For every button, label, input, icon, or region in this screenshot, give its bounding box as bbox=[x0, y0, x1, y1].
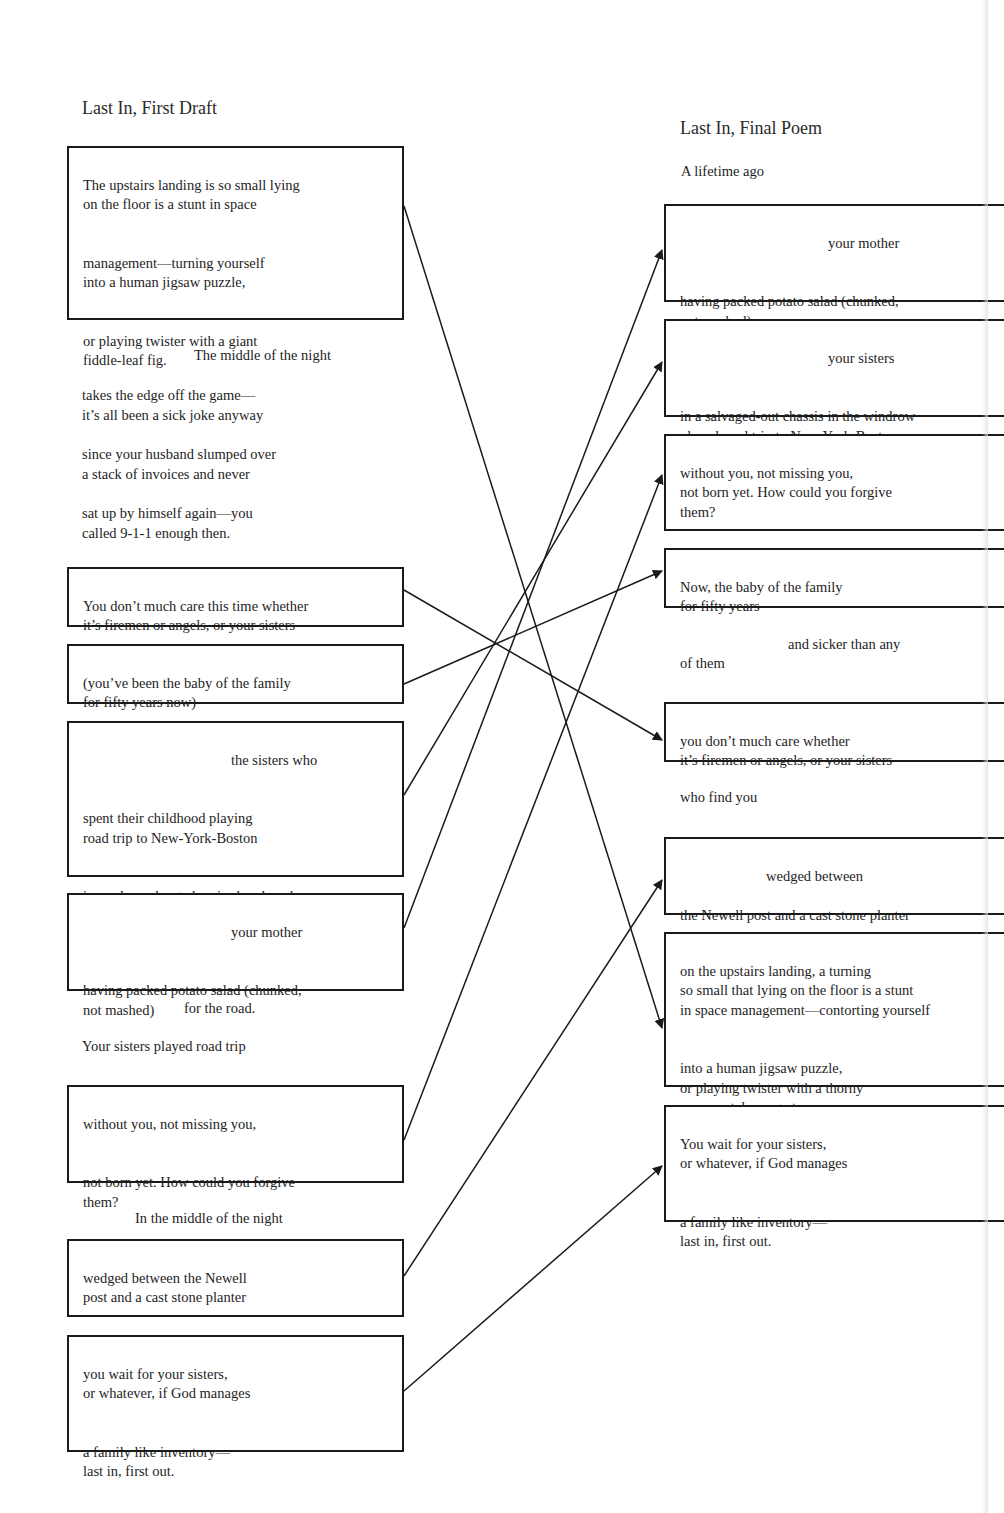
arrow-L1-to-R7 bbox=[404, 206, 662, 1028]
final-title: Last In, Final Poem bbox=[680, 118, 822, 139]
indented-line: your mother bbox=[83, 923, 388, 943]
arrow-L2-to-R5 bbox=[404, 590, 662, 740]
final-box-wedged-between: wedged between the Newell post and a cas… bbox=[664, 837, 1004, 915]
arrow-L8-to-R8 bbox=[404, 1166, 662, 1391]
page-edge-shadow bbox=[982, 0, 988, 1513]
draft-box-dont-much-care: You don’t much care this time whether it… bbox=[67, 567, 404, 627]
draft-box-wedged-between: wedged between the Newell post and a cas… bbox=[67, 1239, 404, 1317]
stanza: The upstairs landing is so small lying o… bbox=[83, 176, 388, 215]
draft-stanza-husband-slumped: since your husband slumped over a stack … bbox=[82, 445, 276, 484]
draft-line-in-the-middle: In the middle of the night bbox=[135, 1209, 283, 1229]
final-box-your-mother: your mother having packed potato salad (… bbox=[664, 204, 1004, 302]
stanza: without you, not missing you, not born y… bbox=[680, 464, 990, 523]
draft-box-upstairs-landing: The upstairs landing is so small lying o… bbox=[67, 146, 404, 320]
draft-title: Last In, First Draft bbox=[82, 98, 217, 119]
final-box-you-wait: You wait for your sisters, or whatever, … bbox=[664, 1105, 1004, 1222]
stanza: Now, the baby of the family for fifty ye… bbox=[680, 578, 990, 617]
final-line-lifetime-ago: A lifetime ago bbox=[681, 162, 764, 182]
stanza: not born yet. How could you forgive them… bbox=[83, 1173, 388, 1212]
stanza: a family like inventory— last in, first … bbox=[680, 1213, 990, 1252]
final-box-upstairs-landing: on the upstairs landing, a turning so sm… bbox=[664, 932, 1004, 1087]
arrow-L5-to-R1 bbox=[404, 250, 662, 928]
draft-line-for-the-road: for the road. bbox=[184, 999, 255, 1019]
stanza: on the upstairs landing, a turning so sm… bbox=[680, 962, 990, 1021]
indented-line: wedged between bbox=[680, 867, 990, 887]
arrow-L6-to-R3 bbox=[404, 475, 662, 1140]
final-line-sicker-than-any: and sicker than any bbox=[788, 635, 900, 655]
final-box-your-sisters: your sisters in a salvaged-out chassis i… bbox=[664, 319, 1004, 417]
final-box-without-you: without you, not missing you, not born y… bbox=[664, 434, 1004, 531]
arrow-L7-to-R6 bbox=[404, 880, 662, 1276]
stanza: you don’t much care whether it’s firemen… bbox=[680, 732, 990, 771]
stanza: management—turning yourself into a human… bbox=[83, 254, 388, 293]
stanza: You don’t much care this time whether it… bbox=[83, 597, 388, 636]
stanza: without you, not missing you, bbox=[83, 1115, 388, 1135]
draft-line-sisters-played: Your sisters played road trip bbox=[82, 1037, 246, 1057]
draft-box-sisters-who: the sisters who spent their childhood pl… bbox=[67, 721, 404, 877]
stanza: wedged between the Newell post and a cas… bbox=[83, 1269, 388, 1308]
draft-box-you-wait: you wait for your sisters, or whatever, … bbox=[67, 1335, 404, 1452]
indented-line: the sisters who bbox=[83, 751, 388, 771]
stanza: the Newell post and a cast stone planter bbox=[680, 906, 990, 926]
stanza: a family like inventory— last in, first … bbox=[83, 1443, 388, 1482]
draft-box-without-you: without you, not missing you, not born y… bbox=[67, 1085, 404, 1183]
final-box-baby-of-family: Now, the baby of the family for fifty ye… bbox=[664, 548, 1004, 608]
arrow-L3-to-R4 bbox=[404, 571, 662, 684]
final-line-who-find-you: who find you bbox=[680, 788, 757, 808]
stanza: You wait for your sisters, or whatever, … bbox=[680, 1135, 990, 1174]
final-box-dont-much-care: you don’t much care whether it’s firemen… bbox=[664, 702, 1004, 762]
indented-line: your sisters bbox=[680, 349, 990, 369]
stanza: (you’ve been the baby of the family for … bbox=[83, 674, 388, 713]
arrow-L4-to-R2 bbox=[404, 362, 662, 795]
final-line-of-them: of them bbox=[680, 654, 725, 674]
draft-heading-middle-of-night: The middle of the night bbox=[194, 346, 331, 366]
stanza: you wait for your sisters, or whatever, … bbox=[83, 1365, 388, 1404]
stanza: spent their childhood playing road trip … bbox=[83, 809, 388, 848]
draft-box-baby-of-family: (you’ve been the baby of the family for … bbox=[67, 644, 404, 704]
draft-box-your-mother: your mother having packed potato salad (… bbox=[67, 893, 404, 991]
draft-stanza-called-911: sat up by himself again—you called 9-1-1… bbox=[82, 504, 253, 543]
draft-stanza-edge-off-game: takes the edge off the game— it’s all be… bbox=[82, 386, 263, 425]
indented-line: your mother bbox=[680, 234, 990, 254]
